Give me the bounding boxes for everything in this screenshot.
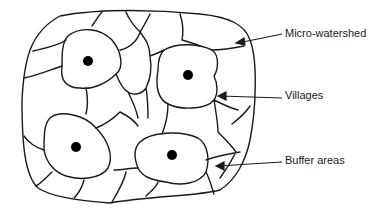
village-dot-1 <box>83 56 93 66</box>
label-buffer-areas: Buffer areas <box>285 154 345 166</box>
arrowhead-villages <box>218 92 226 100</box>
arrow-villages <box>220 96 282 98</box>
village-dot-2 <box>183 70 193 80</box>
label-villages: Villages <box>285 89 323 101</box>
arrowhead-buffer-areas <box>216 162 224 170</box>
village-dot-3 <box>71 142 81 152</box>
arrowhead-micro-watershed <box>236 38 245 45</box>
buffer-division-lines <box>24 12 250 202</box>
label-micro-watershed: Micro-watershed <box>285 27 366 39</box>
arrow-buffer-areas <box>218 162 282 166</box>
village-dot-4 <box>167 150 177 160</box>
micro-watershed-boundary <box>22 11 255 204</box>
